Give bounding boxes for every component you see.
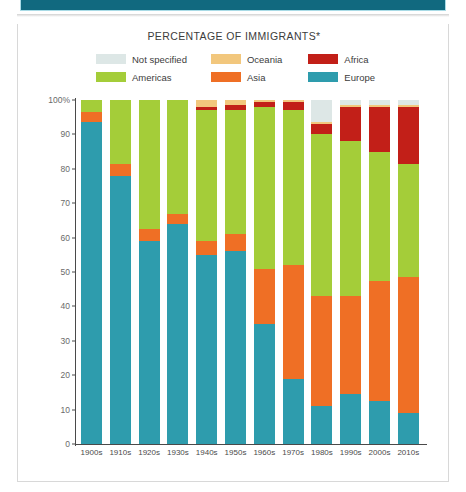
bar-segment-americas	[283, 110, 304, 265]
bar-segment-europe	[81, 122, 102, 444]
bar-segment-asia	[196, 241, 217, 255]
legend-label-europe: Europe	[344, 72, 375, 83]
bar-segment-americas	[398, 164, 419, 278]
bar-segment-europe	[110, 176, 131, 444]
bar-1960s[interactable]	[254, 100, 275, 444]
header-shadow	[17, 14, 449, 17]
x-axis-label-1940s: 1940s	[192, 448, 222, 457]
bar-segment-asia	[167, 214, 188, 224]
y-axis-tick-mark	[72, 168, 75, 169]
x-axis-label-1950s: 1950s	[221, 448, 251, 457]
chart-title: PERCENTAGE OF IMMIGRANTS*	[18, 30, 450, 42]
bar-segment-africa	[398, 107, 419, 164]
legend-label-americas: Americas	[132, 72, 172, 83]
bar-segment-asia	[110, 164, 131, 176]
header-band-inner-border	[20, 0, 446, 11]
y-axis-tick-mark	[72, 203, 75, 204]
y-axis-tick-mark	[72, 272, 75, 273]
bar-1990s[interactable]	[340, 100, 361, 444]
bar-2010s[interactable]	[398, 100, 419, 444]
bar-1950s[interactable]	[225, 100, 246, 444]
bar-1940s[interactable]	[196, 100, 217, 444]
bar-segment-asia	[398, 277, 419, 413]
y-axis-tick-mark	[72, 100, 75, 101]
bar-segment-africa	[340, 107, 361, 141]
legend-swatch-asia	[211, 72, 241, 82]
y-axis-tick-mark	[72, 375, 75, 376]
plot-area: 0102030405060708090100%1900s1910s1920s19…	[76, 100, 426, 444]
legend-item-asia[interactable]: Asia	[211, 72, 308, 83]
bar-1970s[interactable]	[283, 100, 304, 444]
chart-card: PERCENTAGE OF IMMIGRANTS* Not specifiedO…	[17, 24, 449, 482]
bar-segment-americas	[110, 100, 131, 164]
legend-item-africa[interactable]: Africa	[308, 54, 396, 65]
bar-segment-americas	[340, 141, 361, 296]
x-axis-label-1980s: 1980s	[307, 448, 337, 457]
legend-item-europe[interactable]: Europe	[308, 72, 396, 83]
bar-1980s[interactable]	[311, 100, 332, 444]
bar-segment-europe	[254, 324, 275, 444]
bar-segment-americas	[167, 100, 188, 214]
legend-swatch-africa	[308, 54, 338, 64]
bar-segment-americas	[81, 100, 102, 112]
bar-segment-europe	[283, 379, 304, 444]
x-axis-label-1970s: 1970s	[278, 448, 308, 457]
x-axis-label-1990s: 1990s	[336, 448, 366, 457]
legend-item-not_specified[interactable]: Not specified	[96, 54, 211, 65]
bar-segment-americas	[369, 152, 390, 281]
bar-segment-africa	[311, 124, 332, 134]
legend-row: AmericasAsiaEurope	[96, 68, 396, 86]
legend-label-oceania: Oceania	[247, 54, 282, 65]
legend-item-oceania[interactable]: Oceania	[211, 54, 308, 65]
x-axis-label-1930s: 1930s	[163, 448, 193, 457]
legend-swatch-americas	[96, 72, 126, 82]
bar-segment-asia	[369, 281, 390, 401]
legend-label-asia: Asia	[247, 72, 265, 83]
bar-segment-americas	[311, 134, 332, 296]
bar-segment-asia	[283, 265, 304, 379]
bar-segment-asia	[311, 296, 332, 406]
bar-segment-asia	[340, 296, 361, 394]
bar-segment-asia	[254, 269, 275, 324]
x-axis-label-1910s: 1910s	[105, 448, 135, 457]
y-axis-tick-mark	[72, 237, 75, 238]
bar-segment-europe	[398, 413, 419, 444]
header-band	[17, 0, 449, 14]
bar-1920s[interactable]	[139, 100, 160, 444]
y-axis-tick-mark	[72, 409, 75, 410]
bar-segment-americas	[225, 110, 246, 234]
y-axis-tick-mark	[72, 444, 75, 445]
bar-segment-americas	[139, 100, 160, 229]
bar-segment-europe	[369, 401, 390, 444]
legend-label-not_specified: Not specified	[132, 54, 187, 65]
bar-segment-not-specified	[311, 100, 332, 122]
bar-segment-europe	[340, 394, 361, 444]
chart-legend: Not specifiedOceaniaAfricaAmericasAsiaEu…	[96, 50, 396, 86]
y-axis-tick-mark	[72, 134, 75, 135]
bar-segment-europe	[311, 406, 332, 444]
legend-swatch-not_specified	[96, 54, 126, 64]
y-axis-tick-mark	[72, 306, 75, 307]
y-axis-tick-mark	[72, 340, 75, 341]
bar-segment-europe	[167, 224, 188, 444]
legend-swatch-oceania	[211, 54, 241, 64]
bar-segment-asia	[81, 112, 102, 122]
bar-2000s[interactable]	[369, 100, 390, 444]
bar-segment-africa	[283, 102, 304, 111]
x-axis-label-2010s: 2010s	[393, 448, 423, 457]
x-axis-label-1920s: 1920s	[134, 448, 164, 457]
legend-label-africa: Africa	[344, 54, 368, 65]
bar-segment-europe	[196, 255, 217, 444]
bar-segment-americas	[196, 110, 217, 241]
bar-1930s[interactable]	[167, 100, 188, 444]
bar-segment-africa	[369, 107, 390, 152]
bar-segment-asia	[139, 229, 160, 241]
x-axis-line	[75, 444, 427, 445]
legend-item-americas[interactable]: Americas	[96, 72, 211, 83]
legend-row: Not specifiedOceaniaAfrica	[96, 50, 396, 68]
x-axis-label-1900s: 1900s	[77, 448, 107, 457]
bar-segment-europe	[225, 251, 246, 444]
bar-segment-oceania	[196, 100, 217, 107]
bar-1900s[interactable]	[81, 100, 102, 444]
bar-1910s[interactable]	[110, 100, 131, 444]
